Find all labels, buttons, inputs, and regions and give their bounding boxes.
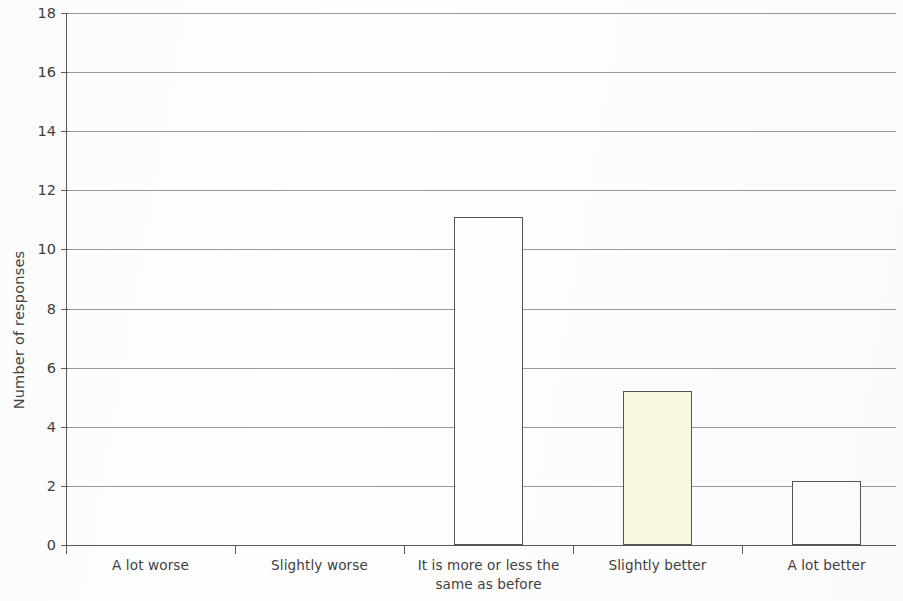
y-axis-tick bbox=[61, 249, 68, 250]
y-axis-tick-label: 14 bbox=[16, 123, 56, 139]
y-axis-tick-label: 18 bbox=[16, 5, 56, 21]
x-axis-label-line: A lot worse bbox=[66, 556, 235, 575]
x-axis-tick bbox=[235, 545, 236, 554]
y-axis-tick bbox=[61, 486, 68, 487]
x-axis-label-line: same as before bbox=[404, 575, 573, 594]
x-axis-label-line: A lot better bbox=[742, 556, 903, 575]
y-axis-tick bbox=[61, 131, 68, 132]
gridline bbox=[66, 72, 896, 73]
x-axis-tick bbox=[573, 545, 574, 554]
x-axis-origin-tick bbox=[66, 545, 67, 554]
x-axis-label-line: Slightly worse bbox=[235, 556, 404, 575]
y-axis-tick bbox=[61, 309, 68, 310]
bar-chart: Number of responses 024681012141618 A lo… bbox=[0, 0, 903, 601]
bar bbox=[792, 481, 861, 545]
y-axis-tick bbox=[61, 72, 68, 73]
gridline bbox=[66, 190, 896, 191]
x-axis-tick bbox=[404, 545, 405, 554]
gridline bbox=[66, 545, 896, 546]
gridline bbox=[66, 131, 896, 132]
x-axis-label: A lot worse bbox=[66, 556, 235, 575]
y-axis-tick-label: 6 bbox=[16, 360, 56, 376]
gridline bbox=[66, 13, 896, 14]
y-axis-tick-label: 16 bbox=[16, 64, 56, 80]
plot-area bbox=[66, 13, 896, 545]
x-axis-label: A lot better bbox=[742, 556, 903, 575]
y-axis-tick-label: 10 bbox=[16, 241, 56, 257]
bar bbox=[454, 217, 523, 545]
y-axis-tick bbox=[61, 368, 68, 369]
x-axis-label: Slightly worse bbox=[235, 556, 404, 575]
y-axis-tick bbox=[61, 190, 68, 191]
x-axis-label-line: Slightly better bbox=[573, 556, 742, 575]
y-axis-tick bbox=[61, 13, 68, 14]
y-axis-tick-label: 12 bbox=[16, 182, 56, 198]
x-axis-label: Slightly better bbox=[573, 556, 742, 575]
x-axis-label: It is more or less thesame as before bbox=[404, 556, 573, 595]
x-axis-label-line: It is more or less the bbox=[404, 556, 573, 575]
y-axis-tick-label: 2 bbox=[16, 478, 56, 494]
y-axis-tick-label: 0 bbox=[16, 537, 56, 553]
x-axis-tick bbox=[742, 545, 743, 554]
bar bbox=[623, 391, 692, 545]
y-axis-tick-label: 4 bbox=[16, 419, 56, 435]
y-axis-tick bbox=[61, 427, 68, 428]
y-axis-tick-label: 8 bbox=[16, 301, 56, 317]
